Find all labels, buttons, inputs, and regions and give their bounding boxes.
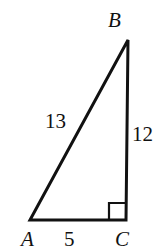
right-angle-square-icon (109, 203, 126, 220)
side-length-base-leg: 5 (64, 229, 75, 250)
side-length-hypotenuse: 13 (45, 111, 66, 132)
vertex-label-a: A (21, 229, 34, 250)
geometry-figure: B A C 13 12 5 (0, 0, 158, 252)
vertex-label-b: B (108, 10, 121, 31)
side-length-vertical-leg: 12 (132, 124, 153, 145)
vertex-label-c: C (115, 229, 129, 250)
